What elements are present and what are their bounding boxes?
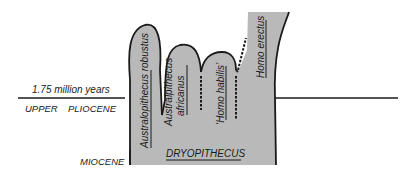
label-time-marker: 1.75 million years — [32, 84, 110, 95]
label-pliocene: PLIOCENE — [68, 103, 117, 114]
svg-text:‘Homo habilis’: ‘Homo habilis’ — [215, 62, 226, 125]
svg-text:Homo erectus: Homo erectus — [255, 16, 266, 78]
svg-text:africanus: africanus — [175, 75, 186, 116]
label-upper: UPPER — [25, 103, 58, 114]
svg-text:Australpithecus: Australpithecus — [163, 58, 174, 127]
label-miocene: MIOCENE — [80, 156, 125, 167]
label-homo-habilis: ‘Homo habilis’ — [215, 62, 226, 125]
label-homo-erectus: Homo erectus — [255, 16, 266, 78]
hominid-evolution-diagram: Australopithecus robustus Australpithecu… — [0, 0, 415, 176]
label-dryopithecus: DRYOPITHECUS — [166, 148, 245, 159]
svg-text:Australopithecus robustus: Australopithecus robustus — [139, 33, 150, 149]
label-australopithecus-robustus: Australopithecus robustus — [139, 33, 150, 149]
